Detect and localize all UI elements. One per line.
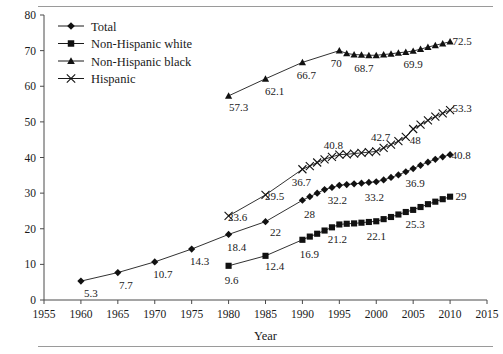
marker-x [431,113,439,121]
marker-x-glyph [321,155,329,163]
marker-diamond [114,269,121,276]
data-point-label: 25.3 [406,218,426,230]
data-point-label: 40.8 [451,149,471,161]
data-point-label: 42.7 [371,131,391,143]
legend-item-label: Total [91,20,117,34]
data-point-label: 16.9 [300,248,320,260]
marker-diamond [432,156,439,163]
marker-diamond [225,231,232,238]
marker-diamond [343,181,350,188]
data-point-label: 21.2 [328,233,347,245]
legend-item-label: Non-Hispanic black [91,55,192,69]
x-axis-tick-label: 2000 [365,308,388,320]
marker-square [417,204,423,210]
marker-square [381,216,387,222]
marker-diamond [373,178,380,185]
marker-diamond [188,245,195,252]
chart-figure: 0102030405060708019551960196519701975198… [0,0,503,354]
x-axis-tick-label: 1990 [291,308,314,320]
marker-square [299,237,305,243]
marker-x-glyph [380,144,388,152]
data-point-label: 70 [331,57,343,69]
marker-diamond [395,171,402,178]
marker-x-glyph [306,162,314,170]
line-chart-plot: 0102030405060708019551960196519701975198… [0,0,503,354]
marker-square [366,219,372,225]
marker-x [394,137,402,145]
marker-diamond [67,22,75,30]
data-point-label: 7.7 [119,279,133,291]
marker-diamond [358,180,365,187]
data-point-label: 28 [304,208,316,220]
marker-square [336,221,342,227]
marker-x [313,158,321,166]
data-point-label: 29.5 [265,190,285,202]
marker-diamond [299,197,306,204]
y-axis-tick-label: 40 [25,152,37,164]
legend-item-total: Total [58,20,117,34]
legend-item-label: Non-Hispanic white [91,37,192,51]
marker-square [388,214,394,220]
marker-diamond [424,159,431,166]
y-axis-tick-label: 60 [25,80,37,92]
marker-diamond [321,186,328,193]
data-point-label: 32.2 [328,194,347,206]
legend-item-non-hispanic-white: Non-Hispanic white [58,37,192,51]
marker-triangle [336,47,343,53]
y-axis-tick-label: 0 [30,294,36,306]
marker-x-glyph [328,153,336,161]
marker-square [262,253,268,259]
y-axis-tick-label: 30 [25,187,37,199]
marker-x-glyph [409,125,417,133]
data-point-label: 18.4 [227,241,247,253]
marker-diamond [402,168,409,175]
marker-diamond [439,153,446,160]
marker-x [424,116,432,124]
x-axis-tick-label: 1960 [69,308,92,320]
marker-x [439,109,447,117]
marker-diamond [262,218,269,225]
y-axis-tick-label: 70 [25,45,37,57]
marker-diamond [351,180,358,187]
marker-triangle [262,75,269,81]
marker-square [373,218,379,224]
marker-diamond [328,184,335,191]
marker-square [432,199,438,205]
data-point-label: 33.2 [365,191,384,203]
marker-x [417,121,425,129]
marker-diamond [306,193,313,200]
marker-square [314,231,320,237]
marker-triangle [225,92,232,98]
marker-x-glyph [402,133,410,141]
marker-x-glyph [431,113,439,121]
x-axis-tick-label: 1970 [143,308,166,320]
marker-diamond [314,190,321,197]
x-axis-tick-label: 1965 [106,308,129,320]
marker-x [328,153,336,161]
marker-x [321,155,329,163]
marker-diamond [77,278,84,285]
marker-x-glyph [313,158,321,166]
marker-x-glyph [424,116,432,124]
marker-square [226,263,232,269]
marker-diamond [365,179,372,186]
marker-x [380,144,388,152]
marker-square [410,207,416,213]
marker-square [307,234,313,240]
marker-diamond [417,162,424,169]
marker-diamond [336,182,343,189]
marker-square [68,40,74,46]
marker-diamond [151,258,158,265]
marker-diamond [410,165,417,172]
y-axis-tick-label: 20 [25,223,37,235]
x-axis-tick-label: 1955 [33,308,56,320]
data-point-label: 36.9 [406,177,426,189]
legend-item-label: Hispanic [91,72,136,86]
series-line [229,197,451,266]
marker-square [344,221,350,227]
data-point-label: 36.7 [292,176,312,188]
marker-square [440,196,446,202]
data-point-label: 53.3 [452,102,472,114]
data-point-label: 22 [270,226,281,238]
legend-item-hispanic: Hispanic [58,72,136,86]
